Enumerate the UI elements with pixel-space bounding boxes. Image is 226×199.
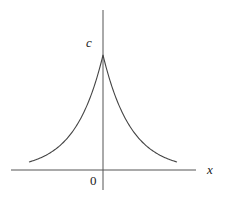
chart-canvas: c x 0 xyxy=(0,0,226,199)
origin-label: 0 xyxy=(90,173,97,188)
x-axis-label: x xyxy=(206,162,213,177)
peak-label: c xyxy=(86,35,92,50)
